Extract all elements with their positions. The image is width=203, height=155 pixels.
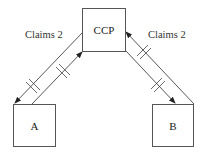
edge-ccp-to-a: [15, 33, 82, 103]
edge-label-left: Claims 2: [25, 29, 63, 40]
edge-ccp-to-b: [126, 51, 175, 103]
node-b: B: [152, 104, 194, 147]
hash-mark: [29, 79, 40, 90]
hash-mark: [56, 67, 67, 78]
hash-mark: [26, 82, 37, 93]
edge-label-right: Claims 2: [148, 29, 186, 40]
edge-b-to-ccp: [126, 32, 194, 104]
node-a: A: [13, 104, 56, 147]
node-b-label: B: [169, 120, 176, 132]
node-a-label: A: [31, 120, 39, 132]
node-ccp: CCP: [82, 8, 126, 52]
diagram-canvas: CCP A B Claims 2 Claims 2: [0, 0, 203, 155]
hash-mark: [137, 45, 148, 56]
node-ccp-label: CCP: [94, 24, 115, 36]
